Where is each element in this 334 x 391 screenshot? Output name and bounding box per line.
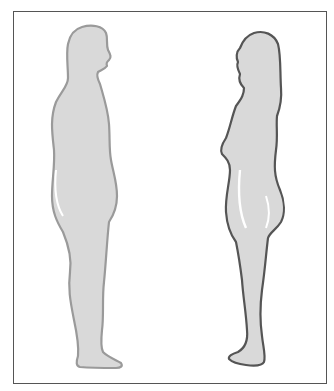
male-silhouette (52, 26, 122, 368)
female-silhouette (221, 32, 284, 366)
silhouettes-canvas (0, 0, 334, 391)
